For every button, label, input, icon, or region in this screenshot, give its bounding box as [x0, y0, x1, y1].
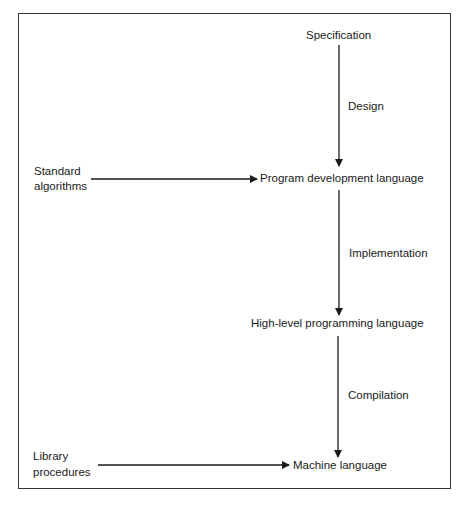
edge-label-design: Design — [348, 99, 384, 114]
node-standard-algorithms-line2: algorithms — [34, 179, 87, 194]
node-standard-algorithms-line1: Standard — [34, 164, 81, 179]
node-machine-language: Machine language — [293, 458, 387, 473]
edge-label-compilation: Compilation — [348, 388, 409, 403]
node-library-procedures-line1: Library — [33, 449, 68, 464]
edge-label-implementation: Implementation — [349, 246, 428, 261]
node-library-procedures-line2: procedures — [33, 465, 91, 480]
node-specification: Specification — [306, 28, 371, 43]
node-program-development-language: Program development language — [260, 171, 424, 186]
node-high-level-programming-language: High-level programming language — [251, 316, 424, 331]
